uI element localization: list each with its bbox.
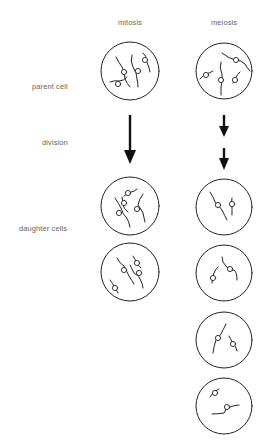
meiosis-daughter-cell-3 [196,312,252,368]
meiosis-daughter-cell-2 [196,245,252,301]
meiosis-division-arrow-2 [219,148,229,170]
mitosis-daughter-cell-2 [101,243,159,301]
division-arrows [124,115,229,170]
meiosis-daughter-cell-1 [196,179,252,235]
mitosis-daughter-cell-1 [101,177,159,235]
mitosis-division-arrow [124,115,136,164]
meiosis-parent-cell [196,43,252,99]
mitosis-parent-cell [101,42,159,100]
meiosis-division-arrow-1 [219,115,229,137]
cell-division-diagram [0,0,262,441]
meiosis-daughter-cell-4 [196,378,252,434]
